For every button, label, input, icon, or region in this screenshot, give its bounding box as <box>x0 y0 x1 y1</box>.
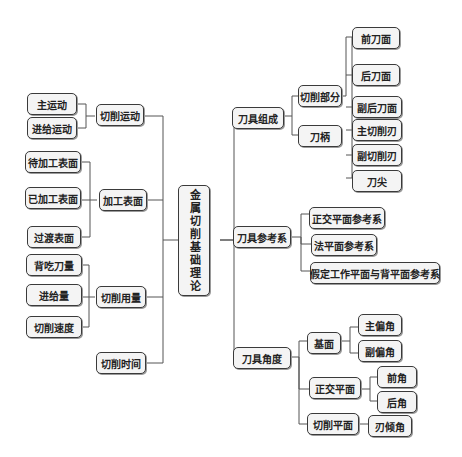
node-machined-surface[interactable]: 加工表面 <box>99 189 147 211</box>
node-feed-amount[interactable]: 进给量 <box>26 284 82 306</box>
node-cutting-amount[interactable]: 切削用量 <box>96 286 146 308</box>
node-assumed-working-ref[interactable]: 假定工作平面与背平面参考系 <box>310 262 440 284</box>
node-main-motion[interactable]: 主运动 <box>27 93 77 115</box>
node-minor-cutting-angle[interactable]: 副偏角 <box>358 340 402 362</box>
node-clearance-angle[interactable]: 后角 <box>377 391 417 413</box>
node-flank-face[interactable]: 后刀面 <box>352 64 400 86</box>
node-orthogonal-ref[interactable]: 正交平面参考系 <box>309 207 385 229</box>
node-cutting-plane[interactable]: 切削平面 <box>307 413 359 435</box>
node-surface-to-machine[interactable]: 待加工表面 <box>25 151 81 173</box>
node-machined-surface-done[interactable]: 已加工表面 <box>25 187 81 209</box>
node-rake-angle[interactable]: 前角 <box>377 366 417 388</box>
node-cutting-motion[interactable]: 切削运动 <box>96 104 144 126</box>
node-normal-plane-ref[interactable]: 法平面参考系 <box>311 234 377 256</box>
root-node[interactable]: 金属切削基础理论 <box>178 185 210 296</box>
node-main-cutting-edge[interactable]: 主切削刃 <box>352 119 402 141</box>
node-minor-flank-face[interactable]: 副后刀面 <box>352 96 402 118</box>
node-inclination-angle[interactable]: 刃倾角 <box>368 415 412 437</box>
node-minor-cutting-edge[interactable]: 副切削刃 <box>352 144 402 166</box>
node-tool-composition[interactable]: 刀具组成 <box>232 107 284 129</box>
node-feed-motion[interactable]: 进给运动 <box>27 117 77 139</box>
node-cutting-time[interactable]: 切削时间 <box>96 352 146 374</box>
node-major-cutting-angle[interactable]: 主偏角 <box>358 314 402 336</box>
node-cutting-part[interactable]: 切削部分 <box>298 85 342 107</box>
node-tool-angle[interactable]: 刀具角度 <box>233 347 291 369</box>
node-transition-surface[interactable]: 过渡表面 <box>27 226 81 248</box>
node-tool-reference[interactable]: 刀具参考系 <box>233 226 291 248</box>
node-base-plane[interactable]: 基面 <box>307 332 341 354</box>
node-rake-face[interactable]: 前刀面 <box>352 27 400 49</box>
node-tool-tip[interactable]: 刀尖 <box>352 170 402 192</box>
node-cutting-speed[interactable]: 切削速度 <box>26 316 82 338</box>
node-back-engagement[interactable]: 背吃刀量 <box>26 254 82 276</box>
node-shank[interactable]: 刀柄 <box>298 125 342 147</box>
node-orthogonal-plane[interactable]: 正交平面 <box>309 377 361 399</box>
